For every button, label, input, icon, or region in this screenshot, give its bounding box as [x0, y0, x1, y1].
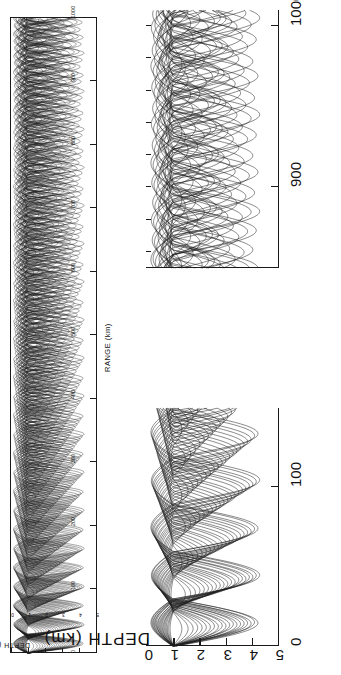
far-range-tick-label: 1000 [287, 0, 304, 26]
overview-depth-axis-title: DEPTH (km) [0, 639, 30, 657]
far-range-tick-label: 900 [287, 162, 304, 187]
overview-depth-tick [96, 648, 97, 653]
overview-range-tick-label: 300 [70, 453, 76, 462]
far-axis-bottom [278, 10, 279, 268]
far-axis-left [146, 267, 278, 268]
overview-range-tick [90, 208, 96, 209]
panel-detail-far [140, 7, 292, 272]
overview-depth-tick-label: 4 [79, 612, 82, 618]
overview-range-tick-label: 400 [70, 390, 76, 399]
figure-page: 01002003004005006007008009001000 RANGE (… [0, 0, 341, 675]
far-range-minor-tick [146, 154, 151, 155]
far-range-minor-tick [146, 25, 151, 26]
far-range-minor-tick [146, 57, 151, 58]
overview-range-tick-label: 600 [70, 263, 76, 272]
overview-range-tick [90, 271, 96, 272]
overview-axis-top [10, 17, 11, 653]
overview-range-tick [90, 589, 96, 590]
far-range-minor-tick [146, 251, 151, 252]
overview-range-tick [90, 525, 96, 526]
overview-depth-tick-label: 0 [11, 612, 14, 618]
overview-range-tick-label: 100 [70, 580, 76, 589]
overview-range-tick-label: 900 [70, 72, 76, 81]
near-detail-ray-plot [140, 405, 292, 650]
near-range-tick-label: 0 [287, 638, 304, 646]
near-range-tick-label: 100 [287, 462, 304, 487]
near-range-tick [271, 486, 279, 487]
overview-range-axis-title: RANGE (km) [96, 323, 114, 372]
near-depth-tick [226, 638, 227, 646]
overview-depth-tick [79, 648, 80, 653]
near-axis-left [146, 645, 278, 646]
overview-range-tick [90, 462, 96, 463]
far-range-minor-tick [146, 219, 151, 220]
panel-detail-near [140, 405, 292, 650]
far-range-minor-tick [146, 122, 151, 123]
near-depth-tick-label: 3 [223, 647, 231, 664]
near-axis-bottom [278, 408, 279, 646]
near-depth-tick [252, 638, 253, 646]
near-depth-tick [199, 638, 200, 646]
far-detail-ray-plot [140, 7, 292, 272]
overview-depth-tick-label: 2 [45, 612, 48, 618]
near-depth-tick-label: 2 [197, 647, 205, 664]
overview-range-tick [90, 398, 96, 399]
overview-range-tick-label: 0 [70, 650, 76, 653]
overview-range-tick-label: 700 [70, 199, 76, 208]
overview-range-tick [90, 17, 96, 18]
near-depth-tick-label: 0 [145, 647, 153, 664]
near-depth-tick-label: 1 [171, 647, 179, 664]
overview-range-tick [90, 81, 96, 82]
near-depth-tick-label: 4 [249, 647, 257, 664]
overview-axis-right [10, 17, 97, 18]
near-depth-tick-label: 5 [276, 647, 284, 664]
far-range-tick [271, 186, 279, 187]
overview-depth-tick-label: 1 [28, 612, 31, 618]
overview-range-tick-label: 200 [70, 517, 76, 526]
overview-depth-tick [45, 648, 46, 653]
far-range-minor-tick [146, 90, 151, 91]
overview-range-tick-label: 500 [70, 326, 76, 335]
overview-range-tick-label: 800 [70, 136, 76, 145]
near-depth-axis-title: DEPTH (km) [44, 628, 150, 648]
near-depth-tick [278, 638, 279, 646]
overview-range-tick-label: 1000 [70, 6, 76, 18]
overview-range-tick [90, 144, 96, 145]
far-range-minor-tick [146, 186, 151, 187]
overview-depth-tick [62, 648, 63, 653]
overview-depth-tick-label: 3 [62, 612, 65, 618]
far-range-tick [271, 25, 279, 26]
overview-depth-tick-label: 5 [96, 612, 99, 618]
near-depth-tick [173, 638, 174, 646]
